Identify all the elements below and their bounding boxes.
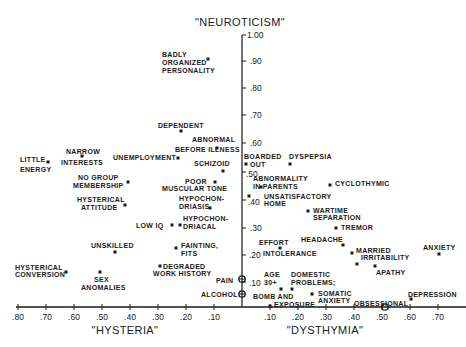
point-label: IN PARENTS [253, 183, 298, 190]
point-label: WORK HISTORY [153, 270, 211, 277]
point-label: DRIACAL [183, 223, 217, 230]
point-label: SOMATIC [318, 290, 352, 297]
point-labels: BADLY ORGANIZED PERSONALITY DEPENDENT AB… [15, 51, 457, 308]
point-label: ORGANIZED [162, 59, 207, 66]
point-label: BADLY [162, 51, 187, 58]
point-label: APATHY [376, 269, 406, 276]
point-label: HYSTERICAL [15, 264, 63, 271]
point-label: WARTIME [313, 207, 348, 214]
data-point [291, 288, 294, 291]
data-point [307, 210, 310, 213]
x-axis-title-hysteria: "HYSTERIA" [92, 324, 159, 336]
data-point [438, 253, 441, 256]
data-point [171, 224, 174, 227]
x-tick-label: .30 [152, 312, 164, 322]
data-point [248, 195, 251, 198]
point-label: SEPARATION [313, 214, 361, 221]
point-label: INTERESTS [61, 159, 103, 166]
data-point [124, 204, 127, 207]
point-label: PAIN [216, 277, 233, 284]
point-label: ANXIETY [318, 297, 350, 304]
point-label: OUT [250, 161, 266, 168]
point-label: EXPOSURE [274, 301, 315, 308]
x-tick-label: .70 [432, 312, 444, 322]
point-label: LITTLE [20, 156, 46, 163]
point-label: DOMESTIC [291, 271, 330, 278]
data-point [269, 305, 272, 308]
data-point [47, 161, 50, 164]
scatter-chart: 1.00 .90 .80 .70 .60 .50 .40 .30 .20 .10… [0, 0, 466, 347]
data-point [175, 247, 178, 250]
point-label: EFFORT [259, 239, 289, 246]
point-label: BEFORE ILLNESS [175, 146, 240, 153]
point-label: HOME [264, 200, 286, 207]
y-tick-label: 1.00 [247, 30, 264, 40]
x-tick-label: .20 [292, 312, 304, 322]
data-point [335, 227, 338, 230]
data-point [329, 184, 332, 187]
point-label: 30+ [264, 279, 277, 286]
data-point [222, 170, 225, 173]
y-tick-label: .90 [250, 56, 262, 66]
data-point [180, 130, 183, 133]
data-point [177, 157, 180, 160]
point-label: UNSATISFACTORY [264, 193, 331, 200]
data-point [207, 58, 210, 61]
point-label: HYPOCHON- [179, 195, 225, 202]
point-label: NARROW [66, 148, 100, 155]
point-label: BOARDED [244, 153, 282, 160]
point-label: AGE [264, 271, 280, 278]
data-point [280, 288, 283, 291]
x-tick-label: .40 [124, 312, 136, 322]
data-point [127, 181, 130, 184]
point-label: DYSPEPSIA [289, 153, 332, 160]
point-label: MEMBERSHIP [73, 182, 123, 189]
data-point [159, 265, 162, 268]
data-point [311, 293, 314, 296]
point-label: HYSTERICAL [77, 196, 125, 203]
x-tick-label: .40 [348, 312, 360, 322]
point-label: DEPENDENT [158, 122, 204, 129]
x-tick-label: .60 [68, 312, 80, 322]
point-label: ABNORMAL [192, 136, 236, 143]
point-label: PERSONALITY [162, 67, 215, 74]
point-label: UNSKILLED [91, 242, 134, 249]
point-label: CYCLOTHYMIC [335, 180, 390, 187]
point-label: ENERGY [20, 166, 51, 173]
point-label: SEX [94, 276, 109, 283]
point-label: TREMOR [341, 224, 373, 231]
point-label: NO GROUP [78, 174, 119, 181]
data-point [356, 263, 359, 266]
x-axis-title-dysthymia: "DYSTHYMIA" [287, 324, 363, 336]
data-point [289, 163, 292, 166]
point-label: MARRIED [356, 247, 391, 254]
point-label: ANOMALIES [81, 284, 126, 291]
point-label: SCHIZOID [194, 160, 230, 167]
point-label: MUSCULAR TONE [162, 185, 227, 192]
x-tick-labels: .80 .70 .60 .50 .40 .30 .20 .10 .10 .20 … [12, 312, 444, 322]
point-label: POOR [185, 178, 207, 185]
point-label: OBSESSIONAL [354, 300, 409, 307]
x-tick-label: .50 [376, 312, 388, 322]
point-label: ANXIETY [423, 244, 455, 251]
x-tick-label: .10 [208, 312, 220, 322]
point-label: FITS [181, 250, 197, 257]
data-point [114, 251, 117, 254]
data-point [99, 271, 102, 274]
y-tick-label: .10 [249, 278, 261, 288]
y-tick-label: .60 [250, 138, 262, 148]
point-label: UNEMPLOYMENT [113, 154, 177, 161]
data-point [374, 265, 377, 268]
y-tick-label: .80 [250, 83, 262, 93]
y-tick-label: .40 [248, 197, 260, 207]
point-label: ALCOHOL [201, 291, 238, 298]
point-label: IRRITABILITY [361, 254, 410, 261]
y-axis-title: "NEUROTICISM" [195, 16, 285, 28]
point-label: HYPOCHON- [183, 215, 229, 222]
point-label: PROBLEMS; [291, 279, 336, 287]
y-tick-label: .20 [249, 250, 261, 260]
x-tick-label: .10 [264, 312, 276, 322]
data-point [351, 252, 354, 255]
data-point [214, 181, 217, 184]
point-label: CONVERSION [15, 271, 65, 278]
